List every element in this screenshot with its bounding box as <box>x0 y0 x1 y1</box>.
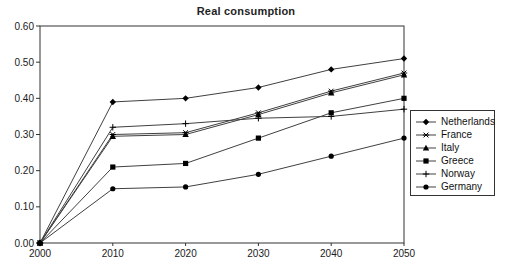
legend-marker <box>415 169 437 179</box>
y-tick-label: 0.50 <box>15 57 35 68</box>
plus-marker <box>423 170 429 176</box>
y-tick-label: 0.10 <box>15 201 35 212</box>
legend-label: Greece <box>441 154 474 167</box>
legend-marker <box>415 182 437 192</box>
x-tick-label: 2050 <box>393 248 416 259</box>
plus-marker <box>110 124 116 130</box>
legend-item-germany: Germany <box>415 180 494 193</box>
asterisk-marker <box>423 132 429 137</box>
x-tick-label: 2040 <box>320 248 343 259</box>
series-greece <box>37 96 406 246</box>
legend-label: France <box>441 128 472 141</box>
diamond-marker <box>423 118 429 124</box>
diamond-marker <box>255 84 261 90</box>
circle-marker <box>423 184 428 189</box>
y-tick-label: 0.40 <box>15 93 35 104</box>
legend-label: Germany <box>441 180 482 193</box>
series-line <box>40 109 404 243</box>
legend-label: Norway <box>441 167 475 180</box>
circle-marker <box>110 186 115 191</box>
diamond-marker <box>328 66 334 72</box>
legend-item-netherlands: Netherlands <box>415 115 494 128</box>
circle-marker <box>256 172 261 177</box>
series-italy <box>37 72 407 246</box>
circle-marker <box>37 240 42 245</box>
legend-marker <box>415 143 437 153</box>
legend-item-france: France <box>415 128 494 141</box>
legend-label: Italy <box>441 141 459 154</box>
circle-marker <box>183 184 188 189</box>
series-line <box>40 73 404 243</box>
y-tick-label: 0.30 <box>15 129 35 140</box>
series-line <box>40 98 404 243</box>
legend-marker <box>415 156 437 166</box>
square-marker <box>256 136 261 141</box>
legend: NetherlandsFranceItalyGreeceNorwayGerman… <box>410 110 495 196</box>
legend-marker <box>415 130 437 140</box>
square-marker <box>110 164 115 169</box>
y-tick-label: 0.60 <box>15 21 35 32</box>
legend-item-norway: Norway <box>415 167 494 180</box>
square-marker <box>423 158 428 163</box>
plot-border <box>40 26 404 243</box>
plus-marker <box>401 106 407 112</box>
series-germany <box>37 136 406 246</box>
legend-marker <box>415 117 437 127</box>
diamond-marker <box>110 99 116 105</box>
circle-marker <box>329 154 334 159</box>
series-norway <box>37 106 407 246</box>
chart: Real consumption 0.000.100.200.300.400.5… <box>0 0 506 270</box>
circle-marker <box>401 136 406 141</box>
diamond-marker <box>401 55 407 61</box>
y-tick-label: 0.20 <box>15 165 35 176</box>
legend-item-italy: Italy <box>415 141 494 154</box>
diamond-marker <box>182 95 188 101</box>
triangle-marker <box>401 72 407 78</box>
x-tick-label: 2010 <box>102 248 125 259</box>
series-line <box>40 138 404 243</box>
series-line <box>40 75 404 243</box>
square-marker <box>183 161 188 166</box>
series-france <box>37 71 407 246</box>
legend-label: Netherlands <box>441 115 495 128</box>
x-tick-label: 2000 <box>29 248 52 259</box>
plus-marker <box>182 120 188 126</box>
y-tick-label: 0.00 <box>15 238 35 249</box>
x-tick-label: 2030 <box>247 248 270 259</box>
square-marker <box>401 96 406 101</box>
x-tick-label: 2020 <box>174 248 197 259</box>
legend-item-greece: Greece <box>415 154 494 167</box>
